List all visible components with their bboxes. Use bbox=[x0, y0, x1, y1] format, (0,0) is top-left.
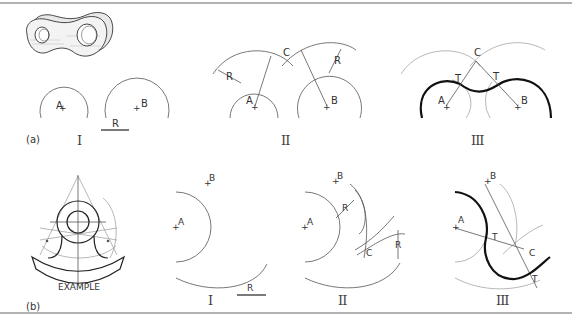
step-numeral: III bbox=[496, 293, 509, 308]
svg-text:+: + bbox=[204, 178, 212, 188]
step-numeral: I bbox=[208, 293, 213, 308]
link-pictorial-icon bbox=[27, 13, 113, 57]
svg-text:B: B bbox=[521, 95, 528, 106]
svg-text:B: B bbox=[331, 95, 338, 106]
point-c-label: C bbox=[283, 47, 290, 58]
svg-text:R: R bbox=[334, 55, 341, 66]
svg-text:C: C bbox=[474, 47, 481, 58]
b-step-3: T C T A + B + III bbox=[452, 171, 550, 308]
svg-text:+: + bbox=[251, 102, 259, 112]
a-step-1: A + B + R (a) I bbox=[26, 78, 169, 148]
example-drawing: EXAMPLE (b) bbox=[26, 175, 124, 312]
a-step-3: C T T A B + + III bbox=[401, 43, 551, 148]
svg-text:R: R bbox=[112, 118, 119, 129]
svg-text:+: + bbox=[452, 222, 460, 232]
step-numeral: II bbox=[281, 133, 290, 148]
svg-text:+: + bbox=[59, 103, 67, 113]
svg-text:T: T bbox=[531, 274, 538, 284]
example-caption: EXAMPLE bbox=[58, 282, 100, 292]
svg-text:+: + bbox=[172, 222, 180, 232]
a-step-2: R R C A B + + II bbox=[213, 43, 362, 148]
svg-text:C: C bbox=[366, 248, 372, 258]
part-b-label: (b) bbox=[26, 301, 40, 312]
tangent-arcs-figure: A + B + R (a) I R R C A B + + II bbox=[0, 0, 572, 325]
svg-text:+: + bbox=[443, 102, 451, 112]
svg-text:R: R bbox=[226, 71, 233, 82]
part-a: A + B + R (a) I R R C A B + + II bbox=[26, 13, 551, 149]
svg-text:T: T bbox=[491, 232, 498, 242]
svg-text:C: C bbox=[529, 248, 535, 258]
svg-text:+: + bbox=[323, 102, 331, 112]
svg-text:T: T bbox=[454, 73, 462, 84]
point-b-label: B bbox=[141, 98, 148, 109]
svg-text:+: + bbox=[133, 103, 141, 113]
svg-text:T: T bbox=[492, 71, 500, 82]
svg-text:+: + bbox=[332, 176, 340, 186]
svg-text:+: + bbox=[301, 222, 309, 232]
part-a-label: (a) bbox=[26, 134, 40, 145]
svg-text:+: + bbox=[514, 102, 522, 112]
svg-text:R: R bbox=[247, 283, 253, 293]
svg-text:+: + bbox=[484, 176, 492, 186]
part-b: EXAMPLE (b) A + B + R I R R C bbox=[26, 171, 550, 312]
step-numeral: II bbox=[338, 293, 347, 308]
step-numeral: III bbox=[471, 133, 484, 148]
b-step-2: R R C A + B + II bbox=[301, 171, 405, 308]
svg-text:R: R bbox=[342, 203, 348, 213]
svg-text:R: R bbox=[395, 240, 401, 250]
b-step-1: A + B + R I bbox=[172, 173, 267, 308]
step-numeral: I bbox=[77, 133, 82, 148]
